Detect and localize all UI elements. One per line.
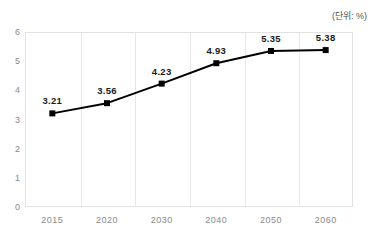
- y-axis-tick-label: 4: [0, 85, 20, 95]
- y-axis-tick-label: 1: [0, 173, 20, 183]
- gridline-vertical: [245, 33, 246, 206]
- x-axis-tick-label: 2050: [260, 215, 282, 225]
- y-axis-tick-label: 0: [0, 202, 20, 212]
- plot-area: [25, 32, 353, 207]
- data-point-label: 5.35: [261, 33, 281, 44]
- x-axis-tick-label: 2060: [315, 215, 337, 225]
- y-axis-tick-label: 6: [0, 27, 20, 37]
- data-point-label: 4.23: [152, 66, 172, 77]
- x-axis-tick-label: 2015: [41, 215, 63, 225]
- gridline-vertical: [135, 33, 136, 206]
- data-point-label: 5.38: [316, 32, 336, 43]
- gridline-vertical: [81, 33, 82, 206]
- chart-title-cropped: [0, 0, 374, 7]
- gridline-vertical: [299, 33, 300, 206]
- x-axis-tick-label: 2020: [96, 215, 118, 225]
- y-axis-tick-label: 3: [0, 115, 20, 125]
- gridline-vertical: [190, 33, 191, 206]
- y-axis-tick-label: 5: [0, 56, 20, 66]
- data-point-label: 3.21: [42, 95, 62, 106]
- data-point-label: 4.93: [206, 45, 226, 56]
- y-axis-tick-label: 2: [0, 144, 20, 154]
- x-axis-tick-label: 2030: [151, 215, 173, 225]
- unit-annotation: (단위: %): [332, 9, 367, 22]
- x-axis-tick-label: 2040: [205, 215, 227, 225]
- data-point-label: 3.56: [97, 85, 117, 96]
- line-chart: (단위: %) 01234562015202020302040205020603…: [0, 0, 374, 236]
